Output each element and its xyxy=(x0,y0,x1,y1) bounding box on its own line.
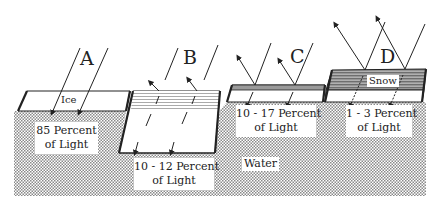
panel-d-percent: 1 - 3 Percent xyxy=(346,107,412,121)
panel-d-letter: D xyxy=(380,46,395,66)
snow-label: Snow xyxy=(367,75,399,87)
panel-c-percent: 10 - 17 Percent xyxy=(236,107,316,121)
panel-b-letter: B xyxy=(183,47,197,67)
panel-d-transmission-label: 1 - 3 Percent of Light xyxy=(346,105,412,137)
panel-b-of-light: of Light xyxy=(134,174,214,188)
panel-a-letter: A xyxy=(80,48,94,68)
panel-c-of-light: of Light xyxy=(236,121,316,135)
panel-c-transmission-label: 10 - 17 Percent of Light xyxy=(236,105,316,137)
light-penetration-diagram: A B C D Ice Snow 85 Percent of Light 10 … xyxy=(0,0,434,207)
panel-a-transmission-label: 85 Percent of Light xyxy=(35,122,98,154)
panel-b-transmission-label: 10 - 12 Percent of Light xyxy=(134,158,214,190)
panel-b-slush-slab xyxy=(119,91,220,153)
panel-b-percent: 10 - 12 Percent xyxy=(134,160,214,174)
panel-c-letter: C xyxy=(290,46,305,66)
panel-a-of-light: of Light xyxy=(35,138,98,152)
panel-c-thin-ice xyxy=(227,85,325,102)
ice-label: Ice xyxy=(61,94,76,106)
panel-d-of-light: of Light xyxy=(346,121,412,135)
water-label: Water xyxy=(242,157,279,171)
panel-a-percent: 85 Percent xyxy=(35,124,98,138)
